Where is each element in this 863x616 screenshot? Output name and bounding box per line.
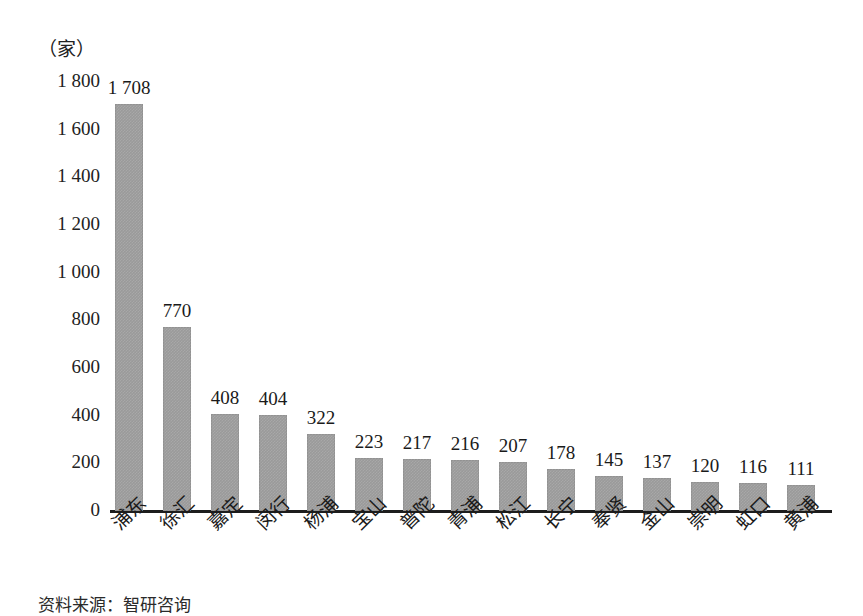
y-axis-tick-label: 800 [8, 309, 100, 328]
source-note: 资料来源：智研咨询 [38, 596, 191, 616]
y-axis-tick-label: 1 200 [8, 214, 100, 233]
bar-slot: 137 [633, 71, 681, 511]
y-axis-tick-label: 400 [8, 405, 100, 424]
bar-slot: 770 [153, 71, 201, 511]
y-axis-tick-label: 1 400 [8, 166, 100, 185]
bar-slot: 116 [729, 71, 777, 511]
bar-slot: 145 [585, 71, 633, 511]
y-axis-tick-label: 1 000 [8, 262, 100, 281]
y-axis-tick-label: 1 800 [8, 71, 100, 90]
y-axis-tick-label: 600 [8, 357, 100, 376]
y-axis-tick-label: 1 600 [8, 119, 100, 138]
bar-slot: 408 [201, 71, 249, 511]
bar-value-label: 111 [765, 459, 837, 478]
y-axis-tick-label: 0 [8, 500, 100, 519]
bar-slot: 111 [777, 71, 825, 511]
y-axis-tick-label: 200 [8, 452, 100, 471]
bar-slot: 1 708 [105, 71, 153, 511]
y-axis-tick-labels: 1 8001 6001 4001 2001 0008006004002000 [8, 0, 100, 610]
bar[interactable] [163, 327, 191, 511]
bar[interactable] [115, 104, 143, 511]
plot-area: 1 70877040840432222321721620717814513712… [110, 70, 832, 511]
bar-slot: 178 [537, 71, 585, 511]
bar-slot: 120 [681, 71, 729, 511]
bar-slot: 404 [249, 71, 297, 511]
